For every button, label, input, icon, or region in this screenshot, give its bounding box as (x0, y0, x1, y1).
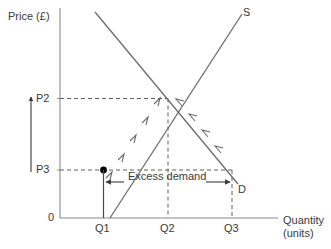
supply-direction-arrows (106, 98, 160, 180)
supply-curve-line (110, 14, 242, 218)
supply-curve (106, 14, 242, 218)
x-axis-label-line2: (units) (283, 227, 314, 239)
y-tick-label-p3: P3 (36, 163, 49, 175)
guide-lines (60, 99, 232, 219)
demand-direction-arrows (176, 99, 223, 153)
demand-curve-label: D (238, 183, 246, 195)
excess-demand-label: Excess demand (128, 170, 206, 182)
y-tick-label-p2: P2 (36, 92, 49, 104)
origin-label: 0 (48, 211, 54, 223)
supply-demand-diagram: Price (£) Quantity (units) P2 P3 0 Q1 Q2… (0, 0, 331, 249)
x-tick-label-q3: Q3 (224, 222, 239, 234)
y-axis-label: Price (£) (8, 10, 50, 22)
x-axis-label-line1: Quantity (283, 214, 324, 226)
supply-curve-label: S (243, 6, 250, 18)
x-tick-label-q2: Q2 (160, 222, 175, 234)
x-tick-label-q1: Q1 (95, 222, 110, 234)
